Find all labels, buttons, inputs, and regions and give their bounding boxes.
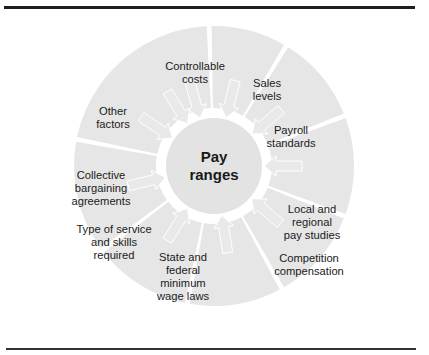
factor-label-line: standards xyxy=(266,137,315,150)
factor-label-line: pay studies xyxy=(284,229,341,242)
factor-label-controllable-costs: Controllablecosts xyxy=(165,60,225,86)
factor-label-line: Other xyxy=(96,105,130,118)
factor-label-payroll-standards: Payrollstandards xyxy=(266,124,315,150)
factor-label-state-federal-minimum-wage: State andfederalminimumwage laws xyxy=(157,251,209,303)
factor-label-local-regional-pay-studies: Local andregionalpay studies xyxy=(284,203,341,242)
factor-label-line: federal xyxy=(157,264,209,277)
factor-label-line: Controllable xyxy=(165,60,225,73)
factor-label-line: Sales xyxy=(253,77,282,90)
factor-label-other-factors: Otherfactors xyxy=(96,105,130,131)
factor-label-line: Payroll xyxy=(266,124,315,137)
factor-label-line: and skills xyxy=(76,236,151,249)
factor-label-line: State and xyxy=(157,251,209,264)
factor-label-sales-levels: Saleslevels xyxy=(253,77,282,103)
factor-label-line: Collective xyxy=(71,169,130,182)
factor-label-line: costs xyxy=(165,73,225,86)
factor-label-line: regional xyxy=(284,216,341,229)
factor-label-line: agreements xyxy=(71,195,130,208)
center-label-line1: Pay xyxy=(189,148,238,166)
factor-label-competition-compensation: Competitioncompensation xyxy=(274,252,344,278)
bottom-rule xyxy=(6,348,416,350)
factor-label-line: bargaining xyxy=(71,182,130,195)
factor-label-line: levels xyxy=(253,90,282,103)
factor-label-line: Competition xyxy=(274,252,344,265)
factor-label-line: factors xyxy=(96,118,130,131)
factor-label-line: Local and xyxy=(284,203,341,216)
center-label: Pay ranges xyxy=(189,148,238,184)
factor-label-collective-bargaining: Collectivebargainingagreements xyxy=(71,169,130,208)
factor-label-type-of-service-skills: Type of serviceand skillsrequired xyxy=(76,223,151,262)
center-label-line2: ranges xyxy=(189,166,238,184)
factor-label-line: wage laws xyxy=(157,290,209,303)
factor-label-line: compensation xyxy=(274,265,344,278)
factor-label-line: Type of service xyxy=(76,223,151,236)
factor-label-line: minimum xyxy=(157,277,209,290)
factor-label-line: required xyxy=(76,249,151,262)
